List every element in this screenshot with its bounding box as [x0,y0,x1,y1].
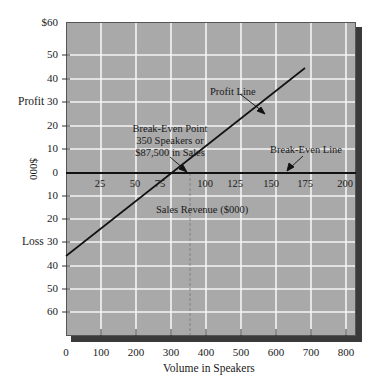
x-ticks [101,329,346,336]
y-tick-label: 50 [28,282,58,294]
y-ticks [62,55,70,312]
x-tick-label: 800 [331,346,361,358]
sales-tick-label: 200 [330,178,360,189]
profit-line [66,68,305,256]
y-tick-label: 20 [28,119,58,131]
x-tick-label: 200 [121,346,151,358]
y-tick-label: 10 [28,142,58,154]
sales-tick-label: 150 [256,178,286,189]
break-even-point-label: Break-Even Point 350 Speakers or $87,500… [120,123,220,159]
sales-tick-label: 175 [290,178,320,189]
y-tick-label: $60 [28,16,58,28]
x-tick-label: 100 [86,346,116,358]
break-even-line-label: Break-Even Line [270,144,342,156]
break-even-point-line1: Break-Even Point [120,123,220,135]
sales-tick-label: 125 [220,178,250,189]
y-axis-label: $000 [28,158,40,180]
profit-line-label: Profit Line [210,86,256,98]
x-tick-label: 400 [191,346,221,358]
x-tick-label: 700 [296,346,326,358]
y-tick-label: 40 [28,72,58,84]
sales-tick-label: 100 [190,178,220,189]
sales-revenue-label: Sales Revenue ($000) [156,204,248,216]
y-tick-label: 50 [28,48,58,60]
break-even-point-line3: $87,500 in Sales [120,147,220,159]
x-tick-label: 600 [261,346,291,358]
y-tick-label: 60 [28,305,58,317]
x-tick-label: 0 [51,346,81,358]
loss-region-label: Loss [22,235,44,247]
sales-tick-label: 25 [85,178,115,189]
break-even-point-line2: 350 Speakers or [120,135,220,147]
y-tick-label: 10 [28,189,58,201]
x-tick-label: 300 [156,346,186,358]
profit-region-label: Profit [18,95,44,107]
x-tick-label: 500 [226,346,256,358]
y-tick-label: 40 [28,259,58,271]
y-tick-label: 20 [28,212,58,224]
x-axis-label: Volume in Speakers [163,362,255,374]
sales-tick-label: 75 [145,178,175,189]
